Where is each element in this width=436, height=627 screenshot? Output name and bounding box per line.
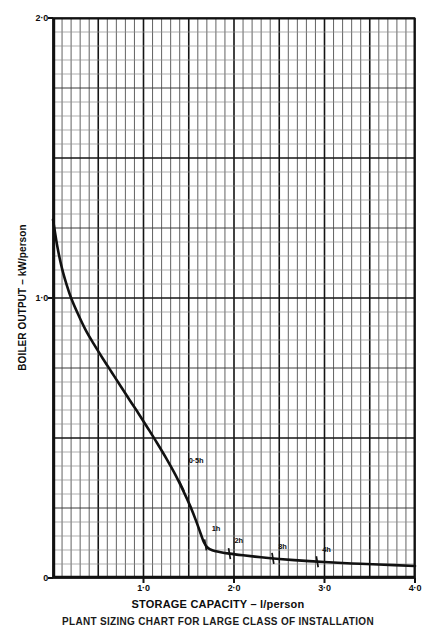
curve-annotation-4h: 4h <box>322 546 330 554</box>
curve-annotation-3h: 3h <box>278 543 286 551</box>
axis-frame <box>53 18 415 578</box>
y-tick-label: 2·0 <box>36 14 48 23</box>
x-axis-tick-labels: 1·02·03·04·0 <box>0 584 436 598</box>
y-tick-label: 1·0 <box>36 294 48 303</box>
x-tick-label: 4·0 <box>409 584 421 593</box>
plot-area <box>53 18 415 578</box>
x-axis-title: STORAGE CAPACITY – l/person <box>0 598 436 610</box>
x-tick-label: 3·0 <box>318 584 330 593</box>
x-tick-label: 2·0 <box>228 584 240 593</box>
figure-caption: PLANT SIZING CHART FOR LARGE CLASS OF IN… <box>0 616 436 627</box>
y-tick-label: 0 <box>43 574 48 583</box>
curve-annotation-1h: 1h <box>212 525 220 533</box>
y-axis-title: BOILER OUTPUT – kW/person <box>17 198 28 398</box>
curve-annotation-2h: 2h <box>234 537 242 545</box>
curve-annotation-05h: 0·5h <box>189 457 204 465</box>
x-tick-label: 1·0 <box>137 584 149 593</box>
